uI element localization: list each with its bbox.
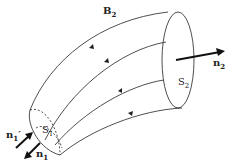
field-line-3 bbox=[55, 80, 164, 145]
label-n1: n1 bbox=[36, 149, 48, 161]
field-line-bottom bbox=[60, 108, 182, 155]
flux-tube-diagram: B2 S2 S1 n2 n1 n1′ bbox=[0, 0, 240, 167]
field-line-2 bbox=[45, 42, 166, 140]
label-n2: n2 bbox=[213, 58, 225, 70]
field-line-top bbox=[30, 12, 168, 110]
label-s2: S2 bbox=[178, 77, 189, 90]
label-n1-prime: n1′ bbox=[6, 130, 21, 142]
flux-tube-drawing bbox=[0, 0, 240, 167]
label-s1: S1 bbox=[42, 125, 53, 138]
label-b2: B2 bbox=[103, 6, 116, 18]
